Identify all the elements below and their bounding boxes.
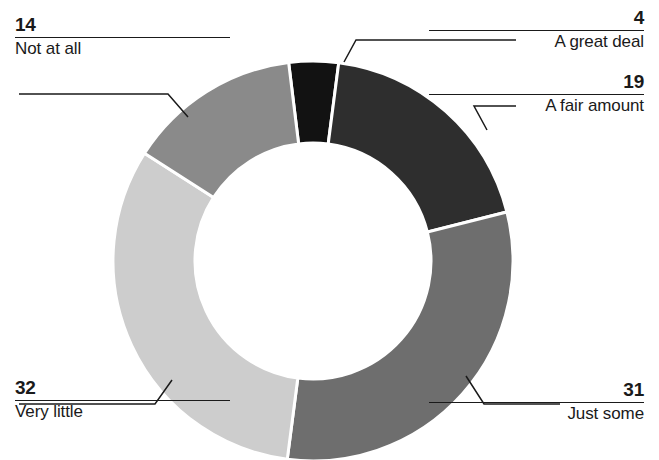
callout-not-at-all: 14 Not at all: [15, 15, 230, 58]
callout-value-a-fair-amount: 19: [429, 72, 644, 92]
callout-value-very-little: 32: [15, 378, 230, 398]
callout-rule-a-fair-amount: [429, 94, 644, 95]
callout-very-little: 32 Very little: [15, 378, 230, 421]
callout-label-a-fair-amount: A fair amount: [429, 96, 644, 116]
callout-rule-just-some: [429, 402, 644, 403]
leader-line-not-at-all: [19, 94, 188, 117]
callout-label-just-some: Just some: [429, 404, 644, 424]
callout-rule-very-little: [15, 400, 230, 401]
callout-value-not-at-all: 14: [15, 15, 230, 35]
callout-label-very-little: Very little: [15, 402, 230, 422]
callout-value-just-some: 31: [429, 380, 644, 400]
callout-a-great-deal: 4 A great deal: [429, 8, 644, 51]
callout-value-a-great-deal: 4: [429, 8, 644, 28]
callout-rule-not-at-all: [15, 37, 230, 38]
callout-a-fair-amount: 19 A fair amount: [429, 72, 644, 115]
callout-rule-a-great-deal: [429, 30, 644, 31]
callout-label-not-at-all: Not at all: [15, 39, 230, 59]
callout-label-a-great-deal: A great deal: [429, 32, 644, 52]
donut-chart: 4 A great deal 19 A fair amount 31 Just …: [0, 0, 659, 460]
callout-just-some: 31 Just some: [429, 380, 644, 423]
